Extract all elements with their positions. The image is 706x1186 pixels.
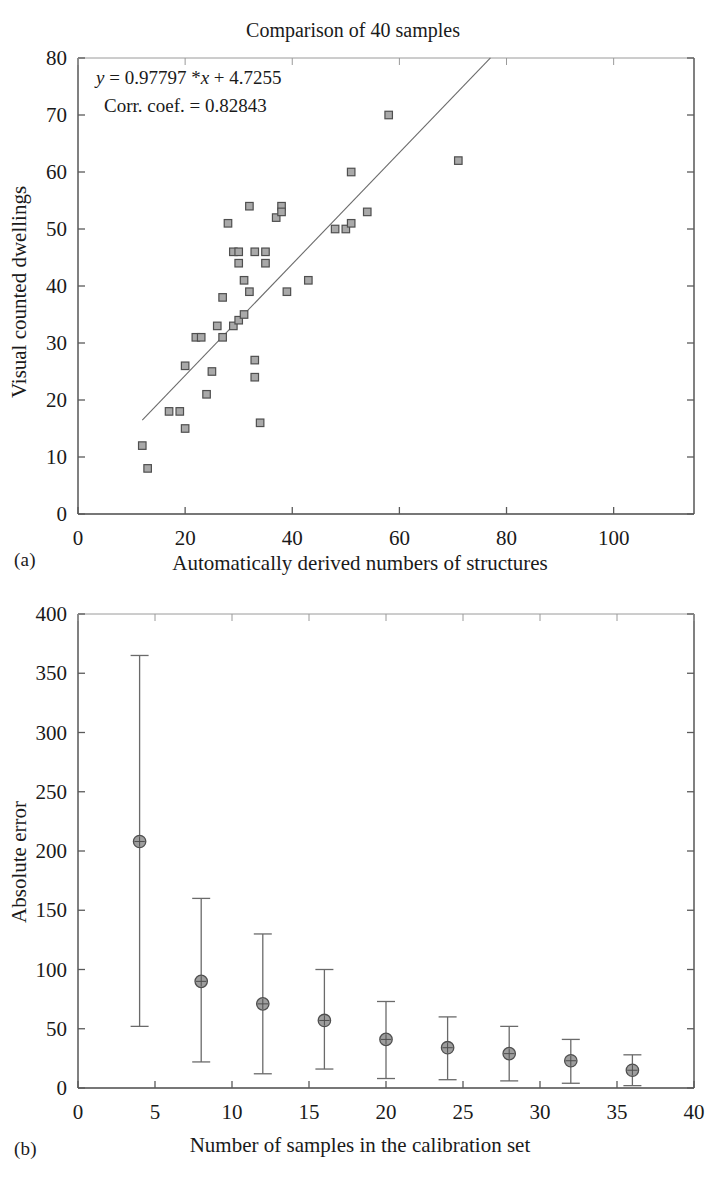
chart-b-x-tick-label: 35 [607, 1100, 628, 1124]
errorbar-item [315, 970, 333, 1070]
scatter-point [246, 202, 254, 210]
scatter-point [203, 391, 211, 399]
scatter-point [224, 220, 232, 228]
figure-root: Comparison of 40 samples 010203040506070… [0, 0, 706, 1186]
scatter-point [262, 248, 270, 256]
errorbar-item [562, 1039, 580, 1083]
errorbar-item [254, 934, 272, 1074]
chart-b-y-tick-label: 400 [36, 602, 68, 626]
chart-b-x-tick-label: 25 [453, 1100, 474, 1124]
scatter-point [176, 408, 184, 416]
chart-panel-a: Comparison of 40 samples 010203040506070… [0, 0, 706, 592]
scatter-point [283, 288, 291, 296]
chart-b-x-tick-label: 15 [299, 1100, 320, 1124]
scatter-point [331, 225, 339, 233]
scatter-point [278, 208, 286, 216]
errorbar-item [623, 1055, 641, 1086]
chart-a-x-tick-label: 100 [598, 526, 630, 550]
chart-a-y-tick-label: 60 [46, 160, 67, 184]
scatter-point [139, 442, 147, 450]
errorbar-item [192, 898, 210, 1062]
errorbar-item [500, 1026, 518, 1081]
chart-b-y-tick-label: 50 [46, 1017, 67, 1041]
chart-a-y-axis-label: Visual counted dwellings [7, 186, 31, 398]
scatter-point [305, 277, 313, 285]
chart-a-x-tick-label: 80 [496, 526, 517, 550]
scatter-point [181, 425, 189, 433]
scatter-point [181, 362, 189, 370]
chart-a-tick-labels: 01020304050607080020406080100 [46, 46, 629, 550]
chart-a-y-tick-label: 30 [46, 331, 67, 355]
chart-b-y-tick-label: 300 [36, 721, 68, 745]
scatter-point [214, 322, 222, 330]
chart-a-y-tick-label: 40 [46, 274, 67, 298]
chart-b-y-tick-label: 200 [36, 839, 68, 863]
scatter-point [197, 334, 205, 342]
errorbar-item [377, 1001, 395, 1078]
scatter-points-group [139, 111, 463, 472]
scatter-point [219, 334, 227, 342]
chart-a-title: Comparison of 40 samples [246, 19, 460, 42]
correlation-coefficient-annotation: Corr. coef. = 0.82843 [104, 95, 267, 116]
scatter-point [240, 311, 248, 319]
chart-a-y-tick-label: 0 [57, 502, 68, 526]
chart-b-x-tick-label: 40 [684, 1100, 705, 1124]
scatter-point [251, 356, 258, 364]
scatter-point [347, 168, 355, 176]
scatter-point [235, 248, 243, 256]
scatter-point [235, 259, 243, 267]
chart-a-y-tick-label: 50 [46, 217, 67, 241]
chart-b-x-tick-label: 5 [150, 1100, 161, 1124]
errorbar-item [439, 1017, 457, 1080]
chart-b-y-tick-label: 0 [57, 1076, 68, 1100]
chart-a-y-tick-label: 10 [46, 445, 67, 469]
chart-b-y-axis-label: Absolute error [7, 801, 31, 923]
panel-a-caption: (a) [14, 549, 36, 571]
scatter-point [364, 208, 372, 216]
chart-b-y-tick-label: 250 [36, 780, 68, 804]
chart-b-x-tick-label: 10 [222, 1100, 243, 1124]
scatter-point [455, 157, 463, 165]
scatter-point [208, 368, 216, 376]
chart-b-y-tick-label: 350 [36, 661, 68, 685]
chart-b-x-tick-label: 30 [530, 1100, 551, 1124]
scatter-chart-svg: Comparison of 40 samples 010203040506070… [0, 0, 706, 592]
chart-b-tick-labels: 0501001502002503003504000510152025303540 [36, 602, 705, 1124]
scatter-point [256, 419, 264, 427]
chart-b-x-tick-label: 20 [376, 1100, 397, 1124]
chart-a-y-tick-label: 70 [46, 103, 67, 127]
errorbar-item [131, 655, 149, 1026]
scatter-point [246, 288, 254, 296]
scatter-point [262, 259, 270, 267]
regression-equation-annotation: y = 0.97797 *x + 4.7255 [94, 67, 282, 88]
scatter-point [385, 111, 393, 119]
chart-b-x-axis-label: Number of samples in the calibration set [190, 1133, 531, 1157]
scatter-point [251, 248, 258, 256]
scatter-point [347, 220, 355, 228]
scatter-point [144, 465, 152, 473]
chart-b-y-tick-label: 100 [36, 958, 68, 982]
scatter-point [240, 277, 248, 285]
chart-a-x-tick-label: 40 [282, 526, 303, 550]
chart-a-y-tick-label: 20 [46, 388, 67, 412]
chart-panel-b: 0501001502002503003504000510152025303540… [0, 592, 706, 1186]
chart-b-y-tick-label: 150 [36, 898, 68, 922]
scatter-point [219, 294, 227, 302]
chart-a-x-axis-label: Automatically derived numbers of structu… [172, 551, 548, 575]
chart-a-y-tick-label: 80 [46, 46, 67, 70]
chart-a-x-tick-label: 0 [73, 526, 84, 550]
errorbar-chart-svg: 0501001502002503003504000510152025303540… [0, 592, 706, 1186]
chart-a-x-tick-label: 60 [389, 526, 410, 550]
chart-b-x-tick-label: 0 [73, 1100, 84, 1124]
scatter-point [165, 408, 173, 416]
chart-a-x-tick-label: 20 [175, 526, 196, 550]
scatter-point [251, 373, 258, 381]
panel-b-caption: (b) [14, 1138, 37, 1160]
errorbar-group [131, 655, 642, 1085]
chart-a-axes [78, 58, 694, 514]
